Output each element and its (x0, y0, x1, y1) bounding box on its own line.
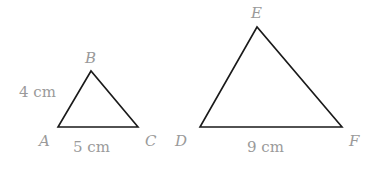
similar-triangles-diagram: B A C 4 cm 5 cm E D F 9 cm (0, 0, 376, 172)
vertex-label-a: A (37, 132, 50, 150)
vertex-label-d: D (174, 132, 187, 150)
side-ac-length: 5 cm (73, 138, 110, 156)
vertex-label-b: B (84, 49, 96, 67)
triangle-def: E D F 9 cm (174, 4, 360, 156)
vertex-label-c: C (145, 132, 157, 150)
vertex-label-e: E (250, 4, 262, 22)
triangle-def-shape (200, 27, 342, 127)
side-ab-length: 4 cm (19, 83, 56, 101)
triangle-abc: B A C 4 cm 5 cm (19, 49, 157, 156)
triangle-abc-shape (58, 71, 138, 127)
vertex-label-f: F (348, 132, 360, 150)
side-df-length: 9 cm (247, 138, 284, 156)
